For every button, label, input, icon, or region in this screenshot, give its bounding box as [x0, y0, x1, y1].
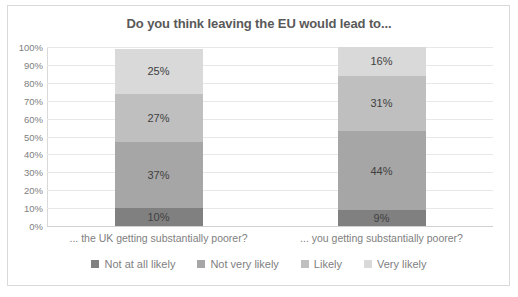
y-axis-tick-label: 90% [3, 59, 43, 70]
chart-title: Do you think leaving the EU would lead t… [0, 16, 518, 31]
y-axis-tick-label: 10% [3, 203, 43, 214]
bar-segment-value-label: 25% [147, 65, 169, 77]
legend-item[interactable]: Not at all likely [91, 258, 175, 270]
legend-label: Very likely [377, 258, 427, 270]
bar-segment[interactable]: 31% [338, 76, 426, 131]
x-axis-category-label: ... the UK getting substantially poorer? [47, 232, 270, 244]
legend-color-swatch [91, 260, 99, 268]
stacked-bar[interactable]: 9%44%31%16% [338, 47, 426, 226]
legend-color-swatch [301, 260, 309, 268]
chart-container: Do you think leaving the EU would lead t… [0, 0, 518, 297]
bar-segment[interactable]: 9% [338, 210, 426, 226]
bar-segment-value-label: 31% [370, 97, 392, 109]
bar-segment-value-label: 44% [370, 165, 392, 177]
bar-segment[interactable]: 37% [115, 142, 203, 208]
bar-segment[interactable]: 25% [115, 49, 203, 94]
y-axis-tick-label: 0% [3, 221, 43, 232]
legend-label: Likely [314, 258, 342, 270]
legend-color-swatch [197, 260, 205, 268]
x-axis-baseline [47, 226, 493, 227]
bar-segment-value-label: 10% [147, 211, 169, 223]
y-axis-tick-label: 20% [3, 185, 43, 196]
y-axis-tick-label: 50% [3, 131, 43, 142]
bar-segment[interactable]: 44% [338, 131, 426, 210]
y-axis-tick-label: 40% [3, 149, 43, 160]
bar-segment-value-label: 37% [147, 169, 169, 181]
y-axis-tick-label: 100% [3, 42, 43, 53]
x-axis-category-label: ... you getting substantially poorer? [270, 232, 493, 244]
bar-segment[interactable]: 10% [115, 208, 203, 226]
y-axis-tick-label: 70% [3, 95, 43, 106]
legend-item[interactable]: Likely [301, 258, 342, 270]
y-axis-tick-label: 80% [3, 77, 43, 88]
y-axis-tick-label: 60% [3, 113, 43, 124]
bar-segment-value-label: 16% [370, 55, 392, 67]
bar-segment-value-label: 27% [147, 112, 169, 124]
legend-item[interactable]: Not very likely [197, 258, 278, 270]
stacked-bar[interactable]: 10%37%27%25% [115, 47, 203, 226]
legend-color-swatch [364, 260, 372, 268]
bar-segment[interactable]: 27% [115, 94, 203, 142]
y-axis-tick-labels: 0%10%20%30%40%50%60%70%80%90%100% [0, 47, 43, 226]
bar-segment-value-label: 9% [374, 212, 390, 224]
legend-item[interactable]: Very likely [364, 258, 427, 270]
legend-label: Not very likely [210, 258, 278, 270]
bar-segment[interactable]: 16% [338, 47, 426, 76]
chart-legend: Not at all likelyNot very likelyLikelyVe… [0, 258, 518, 270]
y-axis-tick-label: 30% [3, 167, 43, 178]
legend-label: Not at all likely [104, 258, 175, 270]
